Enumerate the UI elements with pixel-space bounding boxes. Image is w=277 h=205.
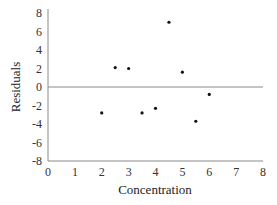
y-tick-label: 8 (36, 6, 42, 20)
data-point-marker (140, 111, 143, 114)
x-axis-tick-labels: 012345678 (45, 165, 266, 179)
data-point-marker (181, 71, 184, 74)
y-tick-label: -8 (32, 154, 42, 168)
y-tick-label: 2 (36, 62, 42, 76)
y-axis-tick-labels: 86420-2-4-6-8 (32, 6, 42, 168)
y-tick-label: 6 (36, 25, 42, 39)
x-tick-label: 8 (260, 165, 266, 179)
x-tick-label: 2 (99, 165, 105, 179)
x-tick-label: 0 (45, 165, 51, 179)
x-tick-label: 7 (233, 165, 239, 179)
x-tick-label: 5 (179, 165, 185, 179)
data-point-marker (100, 111, 103, 114)
y-tick-label: -2 (32, 99, 42, 113)
y-tick-label: -4 (32, 117, 42, 131)
x-tick-label: 4 (153, 165, 159, 179)
data-point-marker (167, 21, 170, 24)
data-point-marker (208, 93, 211, 96)
data-point-marker (114, 66, 117, 69)
y-axis-title: Residuals (8, 62, 23, 113)
x-tick-label: 1 (72, 165, 78, 179)
data-point-marker (194, 120, 197, 123)
x-axis-title: Concentration (118, 182, 192, 197)
data-point-marker (154, 107, 157, 110)
data-point-marker (127, 67, 130, 70)
residual-plot: 86420-2-4-6-8 012345678 Concentration Re… (0, 0, 277, 205)
y-tick-label: 0 (36, 80, 42, 94)
data-points (100, 21, 211, 123)
y-tick-label: 4 (36, 43, 42, 57)
y-tick-label: -6 (32, 136, 42, 150)
x-tick-label: 6 (206, 165, 212, 179)
x-tick-label: 3 (126, 165, 132, 179)
